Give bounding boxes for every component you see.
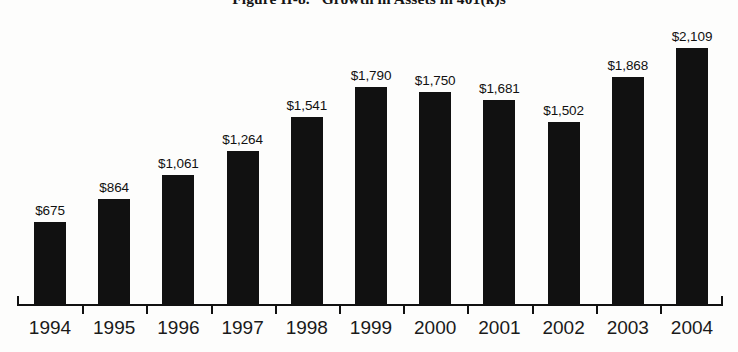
bar-2004 — [676, 48, 708, 304]
x-axis-tick-5 — [403, 306, 405, 314]
x-axis-end-cap — [721, 296, 723, 304]
bar-1999 — [355, 87, 387, 304]
bar-value-label-2002: $1,502 — [524, 103, 604, 118]
x-axis-tick-label-2004: 2004 — [652, 317, 732, 339]
bar-value-label-1998: $1,541 — [267, 98, 347, 113]
plot-area: $6751994$8641995$1,0611996$1,2641997$1,5… — [0, 0, 738, 352]
bar-value-label-1994: $675 — [10, 203, 90, 218]
x-axis-tick-2 — [211, 306, 213, 314]
bar-1997 — [227, 151, 259, 304]
bar-2000 — [419, 92, 451, 304]
x-axis-tick-6 — [467, 306, 469, 314]
bar-2002 — [548, 122, 580, 304]
x-axis-start-cap — [17, 296, 19, 304]
bar-value-label-2003: $1,868 — [588, 58, 668, 73]
bar-value-label-1995: $864 — [74, 180, 154, 195]
bar-value-label-2004: $2,109 — [652, 29, 732, 44]
bar-1996 — [162, 175, 194, 304]
bar-1998 — [291, 117, 323, 304]
x-axis-tick-9 — [660, 306, 662, 314]
bar-value-label-2001: $1,681 — [459, 81, 539, 96]
bar-2003 — [612, 77, 644, 304]
x-axis-tick-0 — [82, 306, 84, 314]
x-axis-tick-1 — [146, 306, 148, 314]
x-axis-tick-8 — [596, 306, 598, 314]
bar-2001 — [483, 100, 515, 304]
bar-1995 — [98, 199, 130, 304]
bar-1994 — [34, 222, 66, 304]
bar-value-label-1997: $1,264 — [203, 132, 283, 147]
x-axis-tick-7 — [532, 306, 534, 314]
x-axis-tick-4 — [339, 306, 341, 314]
bar-value-label-1996: $1,061 — [138, 156, 218, 171]
chart-figure: Figure II-8. Growth in Assets in 401(k)s… — [0, 0, 738, 352]
x-axis-tick-3 — [275, 306, 277, 314]
x-axis-line — [17, 304, 723, 306]
